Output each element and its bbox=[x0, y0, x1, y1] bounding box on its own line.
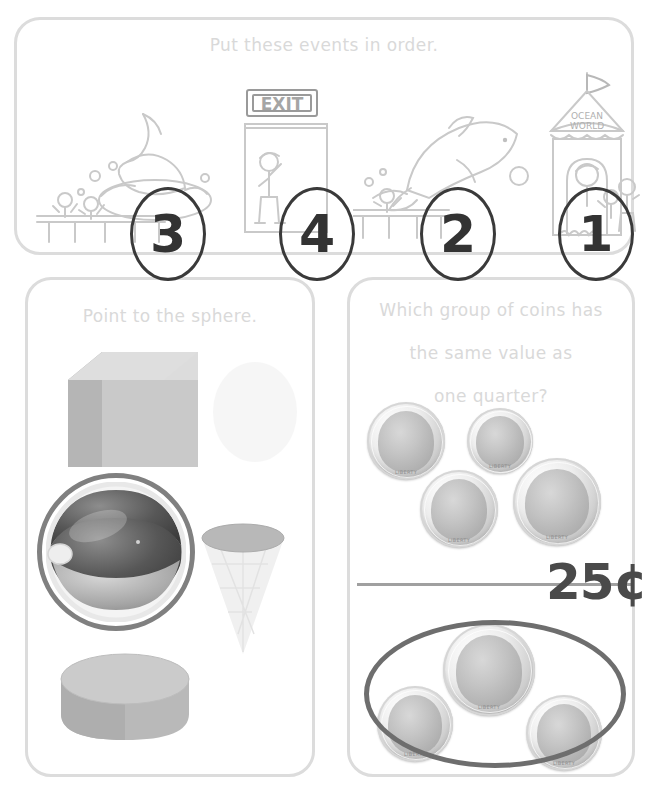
coin-portrait bbox=[525, 469, 588, 538]
coin-portrait bbox=[431, 479, 487, 540]
coins-answer-ring bbox=[364, 620, 626, 768]
shape-cone[interactable] bbox=[198, 522, 288, 657]
shapes-panel: Point to the sphere. bbox=[25, 277, 315, 777]
cube-icon bbox=[68, 352, 198, 467]
answer-number-scene-1: 3 bbox=[150, 208, 186, 260]
shape-sphere[interactable] bbox=[46, 482, 186, 622]
events-scene-strip: EXIT bbox=[17, 62, 631, 252]
answer-oval-scene-2[interactable]: 4 bbox=[279, 187, 355, 281]
answer-number-scene-3: 2 bbox=[440, 208, 476, 260]
booth-sign-line2: WORLD bbox=[570, 121, 604, 131]
exit-sign-text: EXIT bbox=[261, 94, 304, 114]
coins-panel: Which group of coins has the same value … bbox=[347, 277, 635, 777]
coin-label: LIBERTY bbox=[420, 537, 498, 543]
answer-oval-scene-4[interactable]: 1 bbox=[558, 187, 634, 281]
booth-sign-line1: OCEAN bbox=[571, 111, 603, 121]
ice-cream-cone-icon bbox=[198, 522, 288, 657]
coin-label: LIBERTY bbox=[467, 463, 533, 469]
answer-number-scene-2: 4 bbox=[299, 208, 335, 260]
shapes-area bbox=[28, 332, 312, 772]
quarter-value-label: 25¢ bbox=[546, 553, 647, 611]
shape-cylinder[interactable] bbox=[58, 652, 193, 747]
coin-nickel[interactable]: LIBERTY bbox=[513, 458, 601, 546]
answer-oval-scene-1[interactable]: 3 bbox=[130, 187, 206, 281]
shapes-panel-title: Point to the sphere. bbox=[28, 304, 312, 329]
coin-label: LIBERTY bbox=[513, 534, 601, 540]
faded-background-shape bbox=[203, 357, 308, 472]
answer-number-scene-4: 1 bbox=[579, 209, 614, 259]
coin-portrait bbox=[476, 416, 524, 467]
answer-oval-scene-3[interactable]: 2 bbox=[420, 187, 496, 281]
coin-dime[interactable]: LIBERTY bbox=[467, 408, 533, 474]
coin-penny[interactable]: LIBERTY bbox=[420, 470, 498, 548]
sphere-selection-ring bbox=[37, 473, 195, 631]
coin-label: LIBERTY bbox=[367, 469, 445, 475]
coin-penny[interactable]: LIBERTY bbox=[367, 402, 445, 480]
coin-portrait bbox=[378, 411, 434, 472]
events-panel-title: Put these events in order. bbox=[17, 33, 631, 58]
coins-area: LIBERTY LIBERTY LIBERTY LIBERTY 25¢ LIBE… bbox=[350, 280, 632, 774]
shape-cube[interactable] bbox=[68, 352, 198, 467]
events-order-panel: Put these events in order. bbox=[14, 17, 634, 255]
cylinder-icon bbox=[58, 652, 193, 747]
